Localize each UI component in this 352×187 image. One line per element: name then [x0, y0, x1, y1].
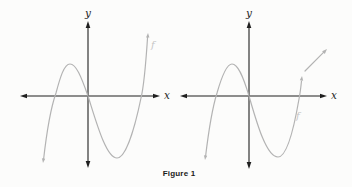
left-graph-curve-f: [44, 37, 148, 160]
left-graph-curve-arrowhead-icon-0: [42, 158, 45, 163]
left-graph-x-axis-label: x: [164, 89, 170, 101]
right-graph-x-axis-left-arrowhead-icon: [180, 94, 187, 99]
figure-caption: Figure 1: [127, 169, 231, 178]
function-graphs-figure: xyfxyf: [0, 0, 352, 187]
right-graph-y-axis-label: y: [245, 7, 253, 19]
left-graph-curve-arrowhead-icon-1: [146, 33, 149, 38]
right-graph-curve-arrowhead-icon-0: [204, 155, 207, 160]
right-graph-x-axis-label: x: [331, 89, 337, 101]
right-graph-curve-label: f: [295, 110, 302, 121]
left-graph-y-axis-bottom-arrowhead-icon: [86, 161, 91, 168]
right-graph-y-axis-bottom-arrowhead-icon: [247, 162, 252, 169]
left-graph-y-axis-label: y: [84, 7, 92, 19]
right-graph-x-axis-right-arrowhead-icon: [320, 94, 327, 99]
right-graph-curve-arrowhead-icon-1: [300, 76, 303, 81]
figure-1-panel: xyfxyf Figure 1: [0, 0, 352, 187]
left-graph-curve-label: f: [150, 39, 157, 50]
right-graph-curve-f: [206, 64, 302, 157]
left-graph-x-axis-right-arrowhead-icon: [153, 94, 160, 99]
left-graph-y-axis-top-arrowhead-icon: [86, 21, 91, 28]
left-graph-x-axis-left-arrowhead-icon: [20, 94, 27, 99]
right-graph-y-axis-top-arrowhead-icon: [247, 21, 252, 28]
right-graph-continuation-arrow-0: [305, 52, 324, 71]
